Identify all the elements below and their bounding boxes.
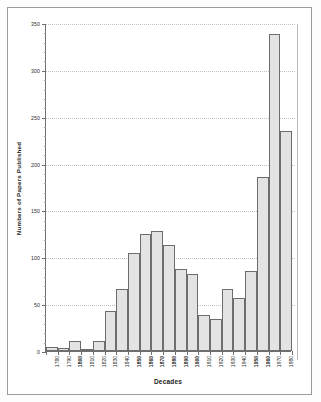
x-axis-tick — [81, 351, 82, 355]
bar — [233, 298, 245, 351]
x-axis-tick — [269, 351, 270, 355]
x-axis-tick-label: 1960 — [265, 356, 271, 367]
x-axis-tick-label: 1870 — [159, 356, 165, 367]
y-axis-tick-label: 200 — [31, 162, 40, 168]
y-axis-minor-tick — [44, 249, 46, 250]
x-axis-tick-label: 1920 — [218, 356, 224, 367]
y-axis-minor-tick — [44, 52, 46, 53]
y-axis-tick — [42, 24, 46, 25]
x-axis-tick — [140, 351, 141, 355]
y-axis-minor-tick — [44, 174, 46, 175]
x-axis-tick — [292, 351, 293, 355]
y-axis-minor-tick — [44, 315, 46, 316]
y-axis-tick — [42, 258, 46, 259]
x-axis-tick-label: 1930 — [230, 356, 236, 367]
x-axis-tick-label: 1790 — [66, 356, 72, 367]
y-axis-tick — [42, 118, 46, 119]
y-axis-minor-tick — [44, 221, 46, 222]
x-axis-tick — [222, 351, 223, 355]
x-axis-tick — [116, 351, 117, 355]
y-axis-minor-tick — [44, 80, 46, 81]
x-axis-title: Decades — [45, 378, 291, 385]
y-axis-minor-tick — [44, 286, 46, 287]
y-axis-tick — [42, 71, 46, 72]
x-axis-tick — [128, 351, 129, 355]
y-axis-minor-tick — [44, 277, 46, 278]
bar — [151, 231, 163, 351]
y-axis-minor-tick — [44, 240, 46, 241]
y-axis-tick-label: 50 — [34, 302, 40, 308]
bar — [222, 289, 234, 351]
bar — [93, 341, 105, 351]
bar — [269, 34, 281, 351]
bar — [69, 341, 81, 351]
y-axis-minor-tick — [44, 90, 46, 91]
bar — [116, 289, 128, 351]
bar — [280, 131, 292, 351]
x-axis-tick — [58, 351, 59, 355]
y-axis-tick-label: 300 — [31, 68, 40, 74]
y-axis-minor-tick — [44, 127, 46, 128]
y-axis-minor-tick — [44, 324, 46, 325]
x-axis-tick-label: 1800 — [77, 356, 83, 367]
x-axis-tick — [93, 351, 94, 355]
bar — [257, 177, 269, 351]
bar — [140, 234, 152, 351]
x-axis-tick — [198, 351, 199, 355]
gridline — [46, 71, 295, 72]
x-axis-tick — [245, 351, 246, 355]
y-axis-title: Numbers of Papers Published — [14, 24, 24, 352]
bar — [210, 319, 222, 351]
bar — [175, 269, 187, 351]
bar — [81, 349, 93, 351]
y-axis-minor-tick — [44, 296, 46, 297]
plot-area: 050100150200250300350 178017901800181018… — [45, 24, 291, 352]
x-axis-tick-label: 1860 — [148, 356, 154, 367]
x-axis-tick — [163, 351, 164, 355]
x-axis-tick — [105, 351, 106, 355]
bar — [128, 253, 140, 351]
x-axis-tick-label: 1950 — [253, 356, 259, 367]
x-axis-tick — [175, 351, 176, 355]
bar — [245, 271, 257, 351]
bar — [198, 315, 210, 351]
y-axis-minor-tick — [44, 230, 46, 231]
y-axis-minor-tick — [44, 146, 46, 147]
x-axis-tick-label: 1910 — [206, 356, 212, 367]
bar — [187, 274, 199, 351]
y-axis-minor-tick — [44, 193, 46, 194]
y-axis-minor-tick — [44, 33, 46, 34]
x-axis-tick-label: 1980 — [288, 356, 294, 367]
x-axis-tick-label: 1880 — [171, 356, 177, 367]
x-axis-tick — [280, 351, 281, 355]
y-axis-minor-tick — [44, 61, 46, 62]
y-axis-tick-label: 0 — [37, 349, 40, 355]
gridline — [46, 118, 295, 119]
y-axis-tick-label: 100 — [31, 255, 40, 261]
gridline — [46, 165, 295, 166]
y-axis-minor-tick — [44, 155, 46, 156]
y-axis-minor-tick — [44, 99, 46, 100]
y-axis-minor-tick — [44, 108, 46, 109]
y-axis-title-label: Numbers of Papers Published — [16, 141, 23, 234]
x-axis-tick-label: 1820 — [101, 356, 107, 367]
y-axis-tick-label: 150 — [31, 208, 40, 214]
x-axis-tick — [210, 351, 211, 355]
bar — [163, 245, 175, 351]
x-axis-tick-label: 1810 — [89, 356, 95, 367]
x-axis-tick-label: 1890 — [183, 356, 189, 367]
chart-page: Numbers of Papers Published 050100150200… — [0, 0, 321, 402]
y-axis-minor-tick — [44, 268, 46, 269]
x-axis-tick — [69, 351, 70, 355]
bar — [105, 311, 117, 351]
right-rule — [297, 24, 298, 360]
x-axis-tick-label: 1850 — [136, 356, 142, 367]
gridline — [46, 24, 295, 25]
x-axis-tick-label: 1830 — [112, 356, 118, 367]
x-axis-tick — [257, 351, 258, 355]
bar — [46, 347, 58, 351]
y-axis-minor-tick — [44, 136, 46, 137]
y-axis-tick — [42, 305, 46, 306]
y-axis-minor-tick — [44, 202, 46, 203]
y-axis-tick-label: 250 — [31, 115, 40, 121]
